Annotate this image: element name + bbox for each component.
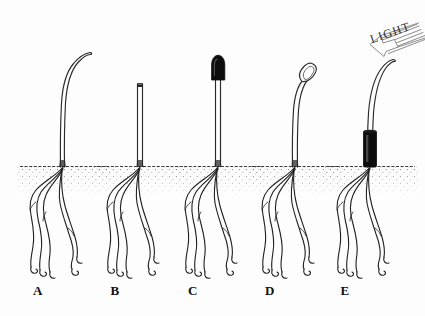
specimen-label-d: D	[255, 283, 285, 299]
specimen-a	[30, 53, 92, 279]
stem-base-shade-b	[137, 160, 144, 167]
light-arrow-bottom-edge	[397, 38, 425, 48]
opaque-tip-cap-c	[212, 55, 225, 80]
specimen-label-c: C	[178, 283, 208, 299]
phototropism-diagram	[0, 0, 425, 316]
specimen-label-b: B	[100, 283, 130, 299]
specimen-label-e: E	[330, 283, 360, 299]
soil-bed-e	[324, 166, 418, 200]
coleoptile-stem-d-edge	[297, 79, 308, 167]
stem-base-shade-d	[292, 160, 299, 167]
figure-canvas: LIGHT A B C D E	[0, 0, 425, 316]
opaque-base-collar-e	[364, 130, 377, 167]
stem-base-shade-a	[59, 160, 66, 167]
cut-shadow-b	[138, 85, 143, 87]
transparent-tip-cap-d	[300, 63, 317, 81]
stem-base-shade-c	[215, 160, 222, 167]
specimen-label-a: A	[23, 283, 53, 299]
